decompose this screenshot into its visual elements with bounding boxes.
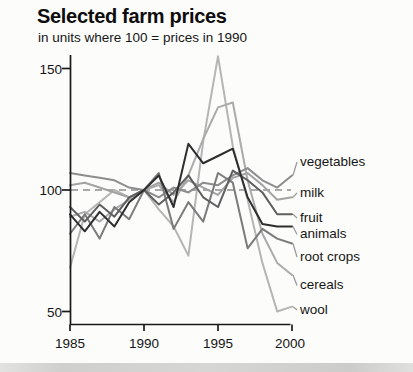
- series-label-vegetables: vegetables: [300, 154, 365, 169]
- x-axis-tick-label: 1985: [48, 336, 92, 351]
- series-label-wool: wool: [300, 302, 328, 317]
- page-edge-strip: [0, 363, 413, 372]
- series-label-root-crops: root crops: [300, 249, 360, 264]
- x-axis-tick-label: 2000: [268, 336, 312, 351]
- series-label-cereals: cereals: [300, 277, 344, 292]
- y-axis-tick-label: 100: [28, 183, 62, 198]
- y-axis-tick-label: 50: [28, 305, 62, 320]
- series-label-animals: animals: [300, 226, 347, 241]
- series-label-milk: milk: [300, 185, 324, 200]
- x-axis-tick-label: 1995: [196, 336, 240, 351]
- series-label-fruit: fruit: [300, 210, 323, 225]
- chart-panel: Selected farm prices in units where 100 …: [0, 0, 413, 372]
- y-axis-tick-label: 150: [28, 62, 62, 77]
- x-axis-tick-label: 1990: [122, 336, 166, 351]
